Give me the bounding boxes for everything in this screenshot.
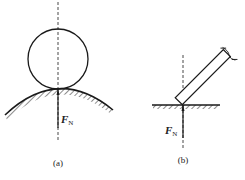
force-label-b: FN xyxy=(164,124,177,138)
force-label-a: FN xyxy=(60,113,73,127)
figure: FN (a) FN (b) xyxy=(0,0,245,180)
caption-b: (b) xyxy=(178,155,189,165)
caption-a: (a) xyxy=(53,158,63,168)
panel-a: FN (a) xyxy=(5,2,113,168)
panel-b: FN (b) xyxy=(152,45,237,165)
